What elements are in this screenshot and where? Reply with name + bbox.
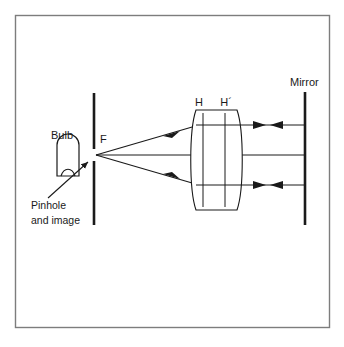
diagram-canvas: Bulb F Pinhole and image H [0, 0, 344, 347]
principal-plane-h-label: H [195, 96, 203, 108]
bulb-label: Bulb [51, 129, 73, 141]
focal-point-label: F [100, 133, 107, 145]
optical-diagram-figure: Bulb F Pinhole and image H [0, 0, 344, 347]
principal-plane-h-prime-label: H´ [220, 96, 232, 108]
pinhole-label-line1: Pinhole [31, 199, 66, 211]
pinhole-label-line2: and image [31, 214, 80, 226]
mirror-label: Mirror [290, 76, 319, 88]
